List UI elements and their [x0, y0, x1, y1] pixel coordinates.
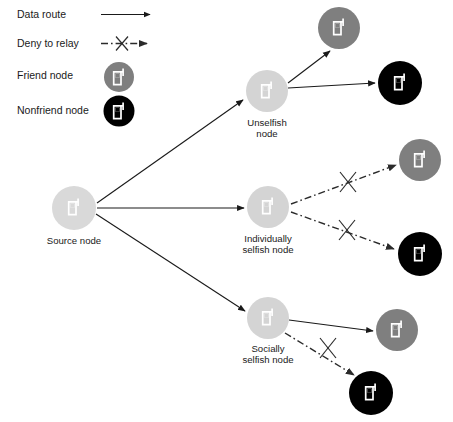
node-nonfriend-bottom[interactable] — [349, 371, 393, 415]
node-circle[interactable] — [247, 186, 289, 228]
node-circle[interactable] — [398, 232, 442, 276]
node-unselfish[interactable]: Unselfish node — [246, 70, 288, 139]
edge-unselfish-to-friend-top — [288, 51, 330, 83]
edge-individually-selfish-to-friend-middle — [291, 165, 396, 204]
edge-socially-selfish-to-nonfriend-bottom — [285, 333, 354, 375]
node-label-unselfish-line2: node — [256, 128, 277, 139]
network-diagram-svg: Data route Deny to relay Friend node — [0, 0, 453, 422]
edge-individually-selfish-to-nonfriend-middle — [291, 212, 394, 249]
node-friend-middle[interactable] — [399, 139, 441, 181]
legend-item-friend-node: Friend node — [17, 62, 134, 92]
x-mark-individually-selfish-to-nonfriend-middle — [339, 220, 355, 240]
legend-item-nonfriend-node: Nonfriend node — [17, 96, 135, 127]
node-nonfriend-top[interactable] — [378, 61, 422, 105]
node-label-source: Source node — [47, 235, 101, 246]
legend-label-data-route: Data route — [17, 8, 66, 20]
legend-symbol-friend-node — [104, 62, 134, 92]
edges-layer — [96, 51, 396, 375]
node-label-unselfish-line1: Unselfish — [247, 117, 286, 128]
node-friend-top[interactable] — [318, 7, 360, 49]
node-circle[interactable] — [399, 139, 441, 181]
node-label-socially-selfish-line1: Socially — [251, 343, 284, 354]
node-label-socially-selfish-line2: selfish node — [242, 354, 293, 365]
legend-item-deny-to-relay: Deny to relay — [17, 37, 147, 51]
node-friend-bottom[interactable] — [376, 309, 418, 351]
legend-symbol-nonfriend-node — [104, 96, 135, 127]
node-individually-selfish[interactable]: Individually selfish node — [242, 186, 293, 255]
node-circle[interactable] — [318, 7, 360, 49]
node-circle[interactable] — [349, 371, 393, 415]
node-circle[interactable] — [376, 309, 418, 351]
diagram-canvas: Data route Deny to relay Friend node — [0, 0, 453, 422]
x-mark-socially-selfish-to-nonfriend-bottom — [320, 338, 336, 358]
legend: Data route Deny to relay Friend node — [17, 8, 150, 127]
node-circle[interactable] — [378, 61, 422, 105]
node-circle[interactable] — [52, 186, 96, 230]
node-socially-selfish[interactable]: Socially selfish node — [242, 297, 293, 365]
legend-label-friend-node: Friend node — [17, 69, 73, 81]
node-circle[interactable] — [247, 297, 289, 339]
edge-socially-selfish-to-friend-bottom — [289, 320, 373, 331]
edge-unselfish-to-nonfriend-top — [288, 83, 375, 88]
node-label-individually-selfish-line1: Individually — [244, 233, 292, 244]
node-circle[interactable] — [246, 70, 288, 112]
node-source[interactable]: Source node — [47, 186, 101, 246]
node-label-individually-selfish-line2: selfish node — [242, 244, 293, 255]
legend-label-nonfriend-node: Nonfriend node — [17, 104, 89, 116]
edge-source-to-socially-selfish — [96, 214, 245, 311]
nodes-layer: Source node Unselfish node Individually … — [47, 7, 442, 415]
node-nonfriend-middle[interactable] — [398, 232, 442, 276]
legend-label-deny-to-relay: Deny to relay — [17, 37, 80, 49]
x-mark-individually-selfish-to-friend-middle — [340, 172, 356, 192]
legend-item-data-route: Data route — [17, 8, 150, 20]
